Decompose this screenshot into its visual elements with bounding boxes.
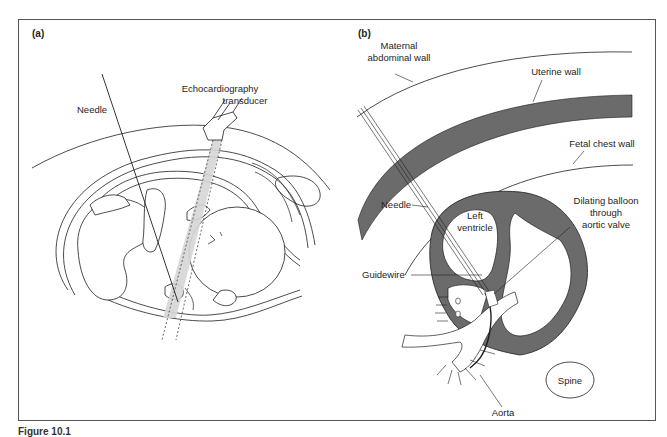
needle-leader — [412, 205, 428, 207]
maternal-label-line1: Maternal — [381, 40, 418, 51]
panel-b-label: (b) — [358, 28, 371, 39]
transducer-label-line1: Echocardiography — [182, 83, 259, 94]
fetal-chest-leader — [573, 151, 584, 164]
guidewire-label: Guidewire — [362, 269, 405, 280]
panel-a: (a) — [32, 28, 330, 340]
aorta-label: Aorta — [492, 407, 515, 418]
balloon-label-line2: through — [590, 207, 622, 218]
balloon-label-line3: aortic valve — [582, 219, 630, 230]
spine-label: Spine — [558, 375, 582, 386]
panel-b: (b) — [357, 28, 638, 418]
maternal-abdomen-outline — [32, 125, 330, 190]
transducer-label-line2: transducer — [223, 95, 268, 106]
figure-caption: Figure 10.1 — [18, 426, 71, 437]
left-ventricle-label-line2: ventricle — [457, 222, 492, 233]
balloon-label-line1: Dilating balloon — [574, 195, 639, 206]
fetal-chest-wall-label: Fetal chest wall — [569, 138, 634, 149]
left-ventricle-label-line1: Left — [467, 210, 483, 221]
panel-a-label: (a) — [32, 28, 44, 39]
fetal-heart — [430, 191, 588, 355]
valve-dot — [456, 298, 461, 304]
needle-b-label: Needle — [381, 199, 411, 210]
maternal-label-line2: abdominal wall — [368, 52, 431, 63]
needle-label: Needle — [77, 104, 107, 115]
uterine-wall-label: Uterine wall — [531, 66, 581, 77]
aorta-leader — [480, 375, 502, 407]
uterine-leader — [533, 80, 542, 102]
placenta-shape — [275, 176, 320, 206]
maternal-leader — [395, 74, 413, 82]
valve-dot — [456, 311, 461, 317]
